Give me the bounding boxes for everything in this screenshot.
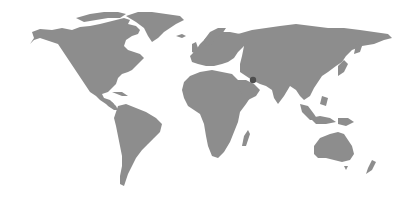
- world-map: [0, 0, 417, 202]
- world-map-svg: [0, 0, 417, 202]
- highlight-marker: [250, 77, 256, 83]
- philippines: [320, 96, 328, 106]
- new-zealand: [366, 160, 376, 174]
- asia: [238, 24, 392, 104]
- new-guinea: [338, 118, 354, 126]
- central-america: [100, 96, 118, 110]
- australia: [314, 132, 354, 162]
- iceland: [176, 34, 186, 38]
- tasmania: [344, 166, 348, 170]
- north-america: [30, 18, 144, 108]
- caribbean: [112, 92, 128, 96]
- madagascar: [242, 130, 250, 146]
- south-america: [114, 104, 162, 186]
- europe: [190, 32, 246, 66]
